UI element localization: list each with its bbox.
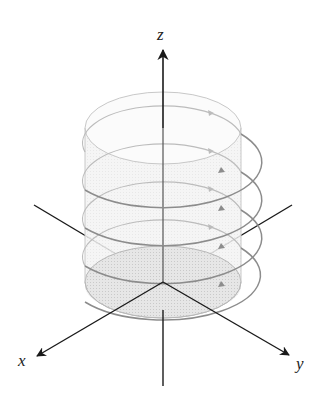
z-axis-label: z (157, 26, 164, 43)
y-axis-label: y (296, 355, 304, 372)
helix-cylinder-diagram (0, 0, 324, 406)
x-axis-label: x (18, 352, 26, 369)
